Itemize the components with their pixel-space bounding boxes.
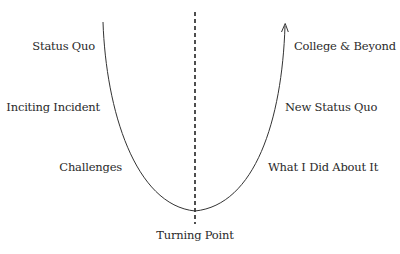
label-challenges: Challenges — [59, 160, 122, 174]
label-what-i-did-about-it: What I Did About It — [268, 160, 378, 174]
narrative-arc-diagram: Status Quo Inciting Incident Challenges … — [0, 0, 400, 254]
label-college-and-beyond: College & Beyond — [294, 39, 396, 53]
label-inciting-incident: Inciting Incident — [6, 100, 100, 114]
label-turning-point: Turning Point — [156, 228, 233, 242]
label-new-status-quo: New Status Quo — [285, 100, 377, 114]
label-status-quo: Status Quo — [32, 39, 95, 53]
story-arc-curve — [103, 22, 285, 211]
